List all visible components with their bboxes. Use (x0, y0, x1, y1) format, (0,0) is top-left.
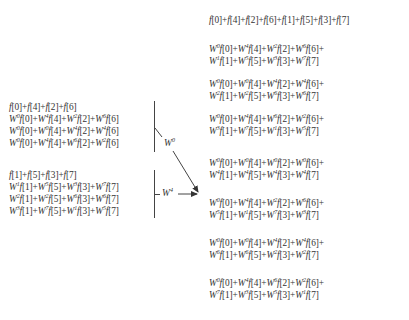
equation-line: W1f[1]+W5f[5]+W3f[3]+W7f[7] (209, 55, 324, 67)
equation-term: W2f[7] (295, 250, 319, 260)
sample-index: [7] (308, 290, 319, 300)
equation-line: W7f[1]+W3f[5]+W5f[3]+W1f[7] (209, 289, 324, 301)
twiddle-factor: W (267, 114, 275, 124)
equation-term: W4f[6] (295, 238, 319, 248)
sample-index: [5] (302, 15, 313, 25)
output-equation-row: W0f[0]+W4f[4]+W2f[2]+W6f[6]+W1f[1]+W5f[5… (209, 43, 324, 67)
sample-index: [0] (222, 44, 233, 54)
output-equation-row: W0f[0]+W0f[4]+W4f[2]+W4f[6]+W2f[1]+W2f[5… (209, 78, 324, 102)
sample-index: [5] (251, 210, 262, 220)
twiddle-factor: W (295, 198, 303, 208)
output-equation-row: W0f[0]+W0f[4]+W0f[2]+W0f[6]+W4f[1]+W4f[5… (209, 157, 324, 181)
sample-index: [2] (280, 114, 291, 124)
twiddle-factor: W (295, 44, 303, 54)
equation-term: W5f[1] (209, 210, 233, 220)
sample-index: [6] (308, 114, 319, 124)
sample-index: [4] (251, 114, 262, 124)
sample-index: [7] (308, 170, 319, 180)
sample-index: [5] (251, 170, 262, 180)
equation-term: W6f[2] (267, 278, 291, 288)
twiddle-factor: W (267, 158, 275, 168)
equation-term: f[6] (264, 15, 277, 25)
equation-term: W6f[1] (209, 250, 233, 260)
sample-index: [2] (280, 278, 291, 288)
equation-line: W4f[1]+W4f[5]+W4f[3]+W4f[7] (209, 169, 324, 181)
sample-index: [2] (280, 198, 291, 208)
twiddle-factor: W (295, 79, 303, 89)
sample-index: [7] (339, 15, 350, 25)
twiddle-factor: W (209, 198, 217, 208)
sample-index: [6] (308, 79, 319, 89)
output-equation-row: f[0]+f[4]+f[2]+f[6]+f[1]+f[5]+f[3]+f[7] (209, 14, 349, 26)
sample-index: [4] (251, 238, 262, 248)
equation-line: W3f[1]+W7f[5]+W1f[3]+W5f[7] (209, 125, 324, 137)
equation-term: W4f[2] (267, 79, 291, 89)
twiddle-factor: W (209, 44, 217, 54)
sample-index: [3] (280, 290, 291, 300)
sample-index: [3] (280, 56, 291, 66)
sample-index: [3] (280, 126, 291, 136)
equation-term: W4f[7] (295, 170, 319, 180)
equation-term: f[4] (227, 15, 240, 25)
sample-index: [5] (251, 250, 262, 260)
plus-sign: + (319, 79, 324, 89)
sample-index: [5] (251, 56, 262, 66)
sample-index: [7] (308, 126, 319, 136)
equation-term: W0f[4] (238, 158, 262, 168)
twiddle-factor: W (209, 114, 217, 124)
equation-term: W4f[4] (238, 278, 262, 288)
equation-term: W0f[0] (209, 44, 233, 54)
output-equation-row: W0f[0]+W4f[4]+W2f[2]+W6f[6]+W5f[1]+W1f[5… (209, 197, 324, 221)
equation-term: W0f[6] (295, 158, 319, 168)
plus-sign: + (319, 114, 324, 124)
equation-term: W6f[7] (295, 91, 319, 101)
equation-term: f[2] (245, 15, 258, 25)
sample-index: [3] (280, 210, 291, 220)
equation-term: W1f[7] (295, 290, 319, 300)
twiddle-factor: W (267, 290, 275, 300)
equation-term: W2f[6] (295, 114, 319, 124)
equation-term: W4f[1] (209, 170, 233, 180)
equation-term: W1f[1] (209, 56, 233, 66)
sample-index: [3] (280, 170, 291, 180)
equation-term: W5f[3] (267, 290, 291, 300)
twiddle-factor: W (209, 238, 217, 248)
equation-term: f[3] (318, 15, 331, 25)
connector-arrows (0, 0, 409, 320)
sample-index: [0] (211, 15, 222, 25)
equation-term: W2f[1] (209, 91, 233, 101)
twiddle-factor: W (295, 56, 303, 66)
twiddle-factor: W (267, 170, 275, 180)
equation-line: W0f[0]+W0f[4]+W4f[2]+W4f[6]+ (209, 237, 324, 249)
sample-index: [4] (251, 158, 262, 168)
twiddle-factor: W (267, 126, 275, 136)
equation-term: W0f[0] (209, 158, 233, 168)
sample-index: [4] (251, 44, 262, 54)
equation-term: W2f[6] (295, 278, 319, 288)
equation-term: f[0] (209, 15, 222, 25)
twiddle-factor: W (267, 278, 275, 288)
equation-term: W4f[6] (295, 79, 319, 89)
twiddle-factor: W (209, 158, 217, 168)
sample-index: [2] (280, 44, 291, 54)
sample-index: [1] (222, 126, 233, 136)
sample-index: [0] (222, 158, 233, 168)
equation-term: W2f[2] (267, 198, 291, 208)
equation-line: W0f[0]+W4f[4]+W6f[2]+W2f[6]+ (209, 113, 324, 125)
equation-term: W7f[3] (267, 210, 291, 220)
twiddle-factor: W (267, 79, 275, 89)
twiddle-factor: W (267, 210, 275, 220)
sample-index: [0] (222, 198, 233, 208)
sample-index: [5] (251, 290, 262, 300)
sample-index: [6] (308, 44, 319, 54)
twiddle-factor: W (295, 278, 303, 288)
equation-term: f[7] (336, 15, 349, 25)
sample-index: [1] (222, 170, 233, 180)
twiddle-factor: W (295, 170, 303, 180)
twiddle-factor: W (209, 91, 217, 101)
sample-index: [0] (222, 238, 233, 248)
twiddle-factor: W (267, 250, 275, 260)
twiddle-factor: W (209, 79, 217, 89)
twiddle-factor: W (295, 158, 303, 168)
twiddle-factor: W (209, 290, 217, 300)
